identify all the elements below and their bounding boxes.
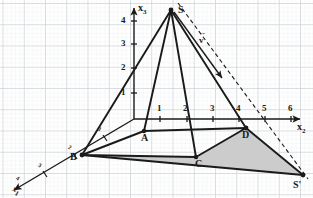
point-label-B: B <box>70 152 77 162</box>
x2-tick-5: 5 <box>262 104 267 113</box>
x2-tick-2: 2 <box>183 104 188 113</box>
point-label-S-prime: S' <box>293 180 301 190</box>
dot-Sprime <box>301 173 306 178</box>
x2-tick-3: 3 <box>210 104 215 113</box>
point-label-S: S <box>178 5 184 15</box>
point-label-C: C <box>195 159 202 169</box>
x3-tick-3: 3 <box>121 39 126 48</box>
x3-tick-2: 2 <box>121 63 126 72</box>
x3-axis-label: x3 <box>138 3 147 16</box>
x2-tick-4: 4 <box>236 104 241 113</box>
dot-S <box>169 8 174 13</box>
point-label-D: D <box>242 130 249 140</box>
x2-axis-label: x2 <box>297 122 306 135</box>
x2-tick-6: 6 <box>288 104 293 113</box>
x3-tick-4: 4 <box>121 16 126 25</box>
figure-canvas <box>0 0 313 198</box>
x2-tick-1: 1 <box>157 104 162 113</box>
vector-v-label: →v <box>199 36 204 45</box>
geometry-figure: x3 x2 x1 1 2 3 4 5 6 1 2 3 4 1 2 3 4 S A… <box>0 0 313 198</box>
point-label-A: A <box>141 133 148 143</box>
dot-B <box>80 153 85 158</box>
x3-tick-1: 1 <box>121 88 126 97</box>
